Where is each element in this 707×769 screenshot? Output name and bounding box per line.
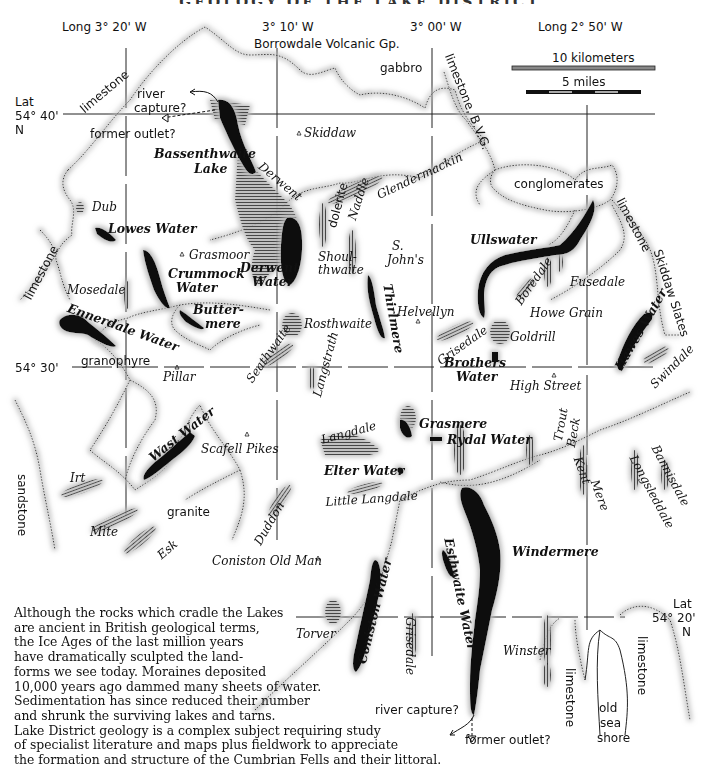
former-outlet-s: former outlet? bbox=[465, 734, 551, 746]
peak-label-grasmoor: Grasmoor bbox=[189, 249, 249, 261]
label-gabbro: gabbro bbox=[380, 62, 422, 74]
peak-label-helvellyn: Helvellyn bbox=[397, 306, 454, 318]
label-old-sea-shore-1: old bbox=[599, 702, 617, 714]
lake-label-buttermere-1: Butter- bbox=[193, 304, 244, 317]
river-capture-s-line bbox=[450, 715, 474, 735]
peak-label-coniston-old-man: Coniston Old Man bbox=[212, 555, 322, 567]
lake-crummock bbox=[143, 250, 170, 308]
peak-helvellyn-icon bbox=[416, 319, 420, 323]
scale-bar-miles bbox=[526, 90, 641, 94]
label-granite: granite bbox=[167, 506, 210, 518]
label-conglomerates: conglomerates bbox=[514, 178, 604, 190]
long-3-20-label: Long 3° 20' W bbox=[62, 21, 147, 33]
label-limestone-s1: limestone bbox=[564, 668, 576, 727]
lake-label-windermere: Windermere bbox=[512, 546, 599, 559]
lake-label-elter-water: Elter Water bbox=[324, 465, 404, 478]
peak-label-high-street: High Street bbox=[510, 380, 581, 392]
river-capture-n-line bbox=[190, 91, 218, 102]
caption-line: forms we see today. Moraines deposited bbox=[14, 665, 344, 680]
lake-label-bassenthwaite-1: Bassenthwaite bbox=[154, 148, 256, 161]
lat-54-40-label-3: N bbox=[15, 124, 24, 136]
valley-label-rosthwaite: Rosthwaite bbox=[304, 318, 372, 330]
peak-scafell-icon bbox=[245, 432, 249, 436]
lat-54-20-label-3: N bbox=[682, 626, 691, 638]
peak-label-skiddaw: Skiddaw bbox=[304, 127, 356, 139]
lake-rydal bbox=[430, 437, 442, 441]
lake-label-rydal-water: Rydal Water bbox=[447, 434, 532, 447]
lake-label-bassenthwaite-2: Lake bbox=[194, 163, 228, 176]
valley-label-st-johns-1: S. bbox=[392, 240, 404, 252]
lat-54-20-label-2: 54° 20' bbox=[652, 612, 696, 624]
label-sandstone: sandstone bbox=[16, 474, 28, 536]
peak-high-street-icon bbox=[552, 373, 556, 377]
label-bvg: Borrowdale Volcanic Gp. bbox=[254, 38, 400, 50]
lat-54-40-label-2: 54° 40' bbox=[15, 110, 59, 122]
river-capture-n-1: river bbox=[137, 88, 165, 100]
caption-line: the formation and structure of the Cumbr… bbox=[14, 753, 344, 768]
caption-line: have dramatically sculpted the land- bbox=[14, 650, 344, 665]
caption-line: 10,000 years ago dammed many sheets of w… bbox=[14, 680, 344, 695]
long-2-50-label: Long 2° 50' W bbox=[538, 21, 623, 33]
peak-label-scafell-pikes: Scafell Pikes bbox=[201, 443, 279, 455]
river-capture-n-2: capture? bbox=[134, 102, 186, 114]
valley-label-irt: Irt bbox=[70, 472, 85, 484]
former-outlet-n: former outlet? bbox=[90, 128, 176, 140]
lake-label-derwent-1: Derwent bbox=[240, 262, 299, 275]
esk bbox=[121, 523, 158, 556]
valley-label-st-johns-2: John's bbox=[387, 254, 424, 266]
valley-label-howe-grain: Howe Grain bbox=[530, 307, 603, 319]
lake-label-grasmere: Grasmere bbox=[419, 418, 487, 431]
lat-54-30-label: 54° 30' bbox=[15, 362, 59, 374]
valley-label-winster: Winster bbox=[503, 645, 551, 657]
label-old-sea-shore-3: shore bbox=[597, 732, 630, 744]
scale-miles-label: 5 miles bbox=[562, 75, 605, 89]
long-3-10-label: 3° 10' W bbox=[262, 21, 314, 33]
caption-text: Although the rocks which cradle the Lake… bbox=[14, 606, 344, 768]
caption-line: Although the rocks which cradle the Lake… bbox=[14, 606, 344, 621]
caption-line: Sedimentation has since reduced their nu… bbox=[14, 694, 344, 709]
fusedale bbox=[557, 252, 563, 272]
peak-grasmoor-icon bbox=[180, 252, 184, 256]
river-capture-s: river capture? bbox=[375, 704, 459, 716]
peak-label-pillar: Pillar bbox=[163, 371, 195, 383]
valley-label-dub: Dub bbox=[92, 201, 117, 213]
valley-label-mite: Mite bbox=[90, 526, 118, 538]
scale-km-label: 10 kilometers bbox=[552, 51, 634, 65]
peak-skiddaw-icon bbox=[297, 131, 301, 135]
label-limestone-s2: limestone bbox=[636, 636, 648, 695]
label-granophyre: granophyre bbox=[81, 355, 150, 367]
lat-54-40-label-1: Lat bbox=[15, 96, 34, 108]
lake-label-lowes-water: Lowes Water bbox=[108, 223, 197, 236]
lake-label-brothers-2: Water bbox=[456, 371, 497, 384]
scale-bar-km bbox=[512, 66, 655, 70]
caption-line: of specialist literature and maps plus f… bbox=[14, 738, 344, 753]
valley-label-shoulthwaite-2: thwaite bbox=[318, 264, 364, 276]
limestone-valley-s bbox=[543, 663, 551, 687]
lake-label-derwent-2: Water bbox=[252, 276, 293, 289]
lake-ullswater bbox=[478, 200, 595, 318]
caption-line: and shrunk the surviving lakes and tarns… bbox=[14, 709, 344, 724]
goldrill bbox=[490, 320, 510, 344]
valley-label-grisedale-s: Grisedale bbox=[404, 617, 416, 675]
valley-label-shoulthwaite-1: Shoul- bbox=[318, 251, 357, 263]
lake-label-crummock-2: Water bbox=[176, 282, 217, 295]
caption-line: are ancient in British geological terms, bbox=[14, 621, 344, 636]
valley-label-fusedale: Fusedale bbox=[570, 276, 625, 288]
caption-line: Lake District geology is a complex subje… bbox=[14, 724, 344, 739]
label-old-sea-shore-2: sea bbox=[600, 717, 621, 729]
lat-54-20-label-1: Lat bbox=[673, 598, 692, 610]
valley-label-goldrill: Goldrill bbox=[510, 331, 556, 343]
valley-label-mosedale: Mosedale bbox=[67, 284, 126, 296]
lake-label-buttermere-2: mere bbox=[205, 318, 241, 331]
long-3-00-label: 3° 00' W bbox=[410, 21, 462, 33]
lake-label-crummock-1: Crummock bbox=[168, 268, 245, 281]
lake-label-ullswater: Ullswater bbox=[470, 234, 537, 247]
caption-line: the Ice Ages of the last million years bbox=[14, 635, 344, 650]
dub bbox=[76, 202, 84, 214]
